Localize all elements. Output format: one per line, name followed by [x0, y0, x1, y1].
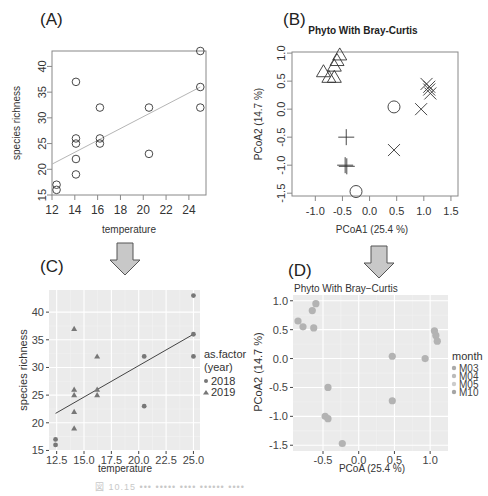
svg-text:-0.5: -0.5	[275, 128, 287, 147]
svg-text:20: 20	[36, 163, 48, 175]
y-axis-label: PCoA2 (14.7 %)	[253, 88, 264, 160]
chart-c: 12.515.017.520.022.525.0152025303540temp…	[17, 290, 247, 474]
svg-text:0.5: 0.5	[273, 324, 288, 336]
down-arrow-icon	[364, 246, 394, 278]
y-axis-label: PCoA2 (14.7 %)	[252, 332, 264, 411]
y-axis-label: species richness	[11, 86, 22, 160]
svg-text:-0.5: -0.5	[269, 381, 288, 393]
chart-title: Phyto With Bray−Curtis	[294, 283, 398, 294]
svg-text:15: 15	[32, 444, 44, 456]
x-axis-label: temperature	[98, 463, 152, 474]
chart-title: Phyto With Bray-Curtis	[308, 25, 418, 36]
panel-label-c: (C)	[40, 257, 64, 276]
svg-text:0.5: 0.5	[389, 205, 404, 217]
svg-text:35: 35	[32, 334, 44, 346]
svg-text:-0.5: -0.5	[314, 454, 333, 466]
down-arrow-icon	[110, 243, 140, 275]
svg-text:1.5: 1.5	[443, 205, 458, 217]
svg-text:0.0: 0.0	[275, 102, 287, 117]
panel-label-d: (D)	[288, 261, 312, 280]
svg-text:-1.5: -1.5	[269, 439, 288, 451]
y-axis-label: species richness	[17, 329, 29, 411]
svg-text:40: 40	[36, 60, 48, 72]
svg-text:22.5: 22.5	[155, 454, 176, 466]
svg-text:1.0: 1.0	[422, 454, 437, 466]
svg-text:30: 30	[36, 112, 48, 124]
x-axis-label: temperature	[102, 224, 156, 235]
x-axis-label: PCoA (25.4 %)	[339, 463, 405, 474]
svg-text:20: 20	[137, 203, 151, 217]
svg-text:22: 22	[159, 203, 173, 217]
svg-text:12.5: 12.5	[46, 454, 67, 466]
legend-entry: 2019	[211, 386, 235, 398]
svg-text:0.5: 0.5	[275, 73, 287, 88]
svg-text:16: 16	[91, 203, 105, 217]
svg-text:12: 12	[45, 203, 59, 217]
panel-label-b: (B)	[283, 10, 306, 29]
svg-text:40: 40	[32, 306, 44, 318]
svg-text:35: 35	[36, 86, 48, 98]
panel-label-a: (A)	[40, 10, 63, 29]
svg-text:-1.0: -1.0	[275, 156, 287, 175]
svg-text:-1.5: -1.5	[275, 184, 287, 203]
svg-text:0.0: 0.0	[273, 353, 288, 365]
svg-text:18: 18	[114, 203, 128, 217]
legend-title: (year)	[204, 361, 233, 373]
legend: as.factor(year)20182019	[203, 348, 247, 398]
svg-text:-1.0: -1.0	[269, 410, 288, 422]
legend-title: as.factor	[204, 348, 247, 360]
svg-text:30: 30	[32, 361, 44, 373]
svg-text:1.0: 1.0	[273, 295, 288, 307]
x-axis-label: PCoA1 (25.4 %)	[336, 224, 408, 235]
chart-a: 12141618202224152025303540temperaturespe…	[11, 47, 206, 235]
figure-caption: 図 10.15 ••• ••••• •••• •••••• ••••	[95, 480, 415, 493]
svg-text:24: 24	[182, 203, 196, 217]
svg-text:25: 25	[36, 137, 48, 149]
figure-canvas: (A)(B)(C)(D)12141618202224152025303540te…	[0, 0, 488, 496]
svg-text:1.0: 1.0	[416, 205, 431, 217]
svg-text:15: 15	[36, 189, 48, 201]
svg-text:25: 25	[32, 389, 44, 401]
svg-text:14: 14	[68, 203, 82, 217]
svg-text:25.0: 25.0	[183, 454, 204, 466]
svg-text:-1.0: -1.0	[306, 205, 325, 217]
legend: monthM03M04M05M10	[452, 350, 483, 398]
legend-entry: M10	[459, 387, 479, 398]
chart-b: Phyto With Bray-Curtis-1.0-0.50.00.51.01…	[253, 25, 459, 235]
svg-text:1.0: 1.0	[275, 45, 287, 60]
svg-text:-0.5: -0.5	[333, 205, 352, 217]
chart-d: -0.50.00.51.01.00.50.0-0.5-1.0-1.5Phyto …	[252, 283, 483, 474]
svg-text:20: 20	[32, 417, 44, 429]
svg-text:15.0: 15.0	[73, 454, 94, 466]
svg-text:0.0: 0.0	[362, 205, 377, 217]
legend-title: month	[452, 350, 483, 362]
